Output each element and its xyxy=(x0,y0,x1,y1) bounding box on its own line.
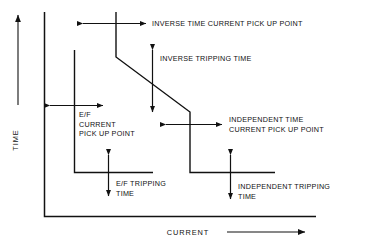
x-axis-label: CURRENT xyxy=(167,228,209,237)
annotation-label-independent-tripping-time-line2: TIME xyxy=(238,192,256,201)
annotation-independent-tripping-time: INDEPENDENT TRIPPING TIME xyxy=(231,155,331,201)
annotation-ef-tripping-time: E/F TRIPPING TIME xyxy=(109,155,167,198)
annotation-ef-current-pick-up-point: E/F CURRENT PICK UP POINT xyxy=(50,106,135,139)
annotation-label-ef-tripping-time-line2: TIME xyxy=(116,189,134,198)
inverse-characteristic-curve xyxy=(116,12,275,173)
y-axis-label: TIME xyxy=(11,129,20,150)
annotation-label-independent-time-current-pick-up-point-line1: INDEPENDENT TIME xyxy=(229,115,303,124)
annotation-label-ef-tripping-time-line1: E/F TRIPPING xyxy=(116,179,166,188)
y-axis-annotation: TIME xyxy=(11,15,20,151)
characteristic-curves xyxy=(75,12,276,173)
annotation-label-ef-current-pick-up-point-line1: E/F xyxy=(79,110,91,119)
time-current-characteristic-diagram: TIME CURRENT INVERSE TIME CURRENT PICK U… xyxy=(0,0,376,243)
annotation-label-inverse-tripping-time: INVERSE TRIPPING TIME xyxy=(160,54,252,63)
annotation-label-ef-current-pick-up-point-line2: CURRENT xyxy=(79,120,116,129)
diagram-canvas: TIME CURRENT INVERSE TIME CURRENT PICK U… xyxy=(0,0,376,243)
annotation-label-inverse-time-current-pick-up-point: INVERSE TIME CURRENT PICK UP POINT xyxy=(152,19,303,28)
annotation-inverse-tripping-time: INVERSE TRIPPING TIME xyxy=(153,50,252,112)
annotation-label-independent-tripping-time-line1: INDEPENDENT TRIPPING xyxy=(238,182,330,191)
annotation-label-ef-current-pick-up-point-line3: PICK UP POINT xyxy=(79,129,135,138)
annotation-label-independent-time-current-pick-up-point-line2: CURRENT PICK UP POINT xyxy=(229,125,324,134)
x-axis-annotation: CURRENT xyxy=(167,228,305,237)
